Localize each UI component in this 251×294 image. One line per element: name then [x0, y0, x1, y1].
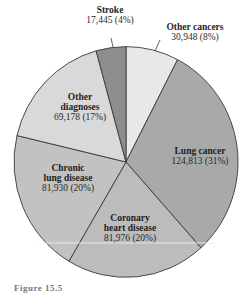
figure-caption-prefix: Figure 15.5 [14, 283, 63, 293]
label-other-cancers: Other cancers 30,948 (8%) [150, 22, 240, 42]
label-lung-cancer-name: Lung cancer [155, 146, 245, 156]
label-lung-cancer: Lung cancer 124,813 (31%) [155, 146, 245, 166]
label-coronary-value: 81,976 (20%) [90, 233, 170, 243]
label-lung-cancer-value: 124,813 (31%) [155, 156, 245, 166]
label-other-cancers-name: Other cancers [150, 22, 240, 32]
label-other-diagnoses: Other diagnoses 69,178 (17%) [40, 92, 120, 122]
label-stroke: Stroke 17,445 (4%) [70, 5, 150, 25]
label-other-diagnoses-line1: Other [40, 92, 120, 102]
figure-caption: Figure 15.5 [14, 283, 63, 293]
label-coronary-line1: Coronary [90, 213, 170, 223]
label-other-cancers-value: 30,948 (8%) [150, 32, 240, 42]
label-stroke-name: Stroke [70, 5, 150, 15]
label-other-diagnoses-line2: diagnoses [40, 102, 120, 112]
label-chronic-line1: Chronic [28, 163, 108, 173]
label-chronic-lung-disease: Chronic lung disease 81,930 (20%) [28, 163, 108, 193]
label-other-diagnoses-value: 69,178 (17%) [40, 112, 120, 122]
leader-line-stroke [111, 38, 113, 47]
label-chronic-value: 81,930 (20%) [28, 183, 108, 193]
label-chronic-line2: lung disease [28, 173, 108, 183]
label-coronary-line2: heart disease [90, 223, 170, 233]
label-stroke-value: 17,445 (4%) [70, 15, 150, 25]
label-coronary-heart-disease: Coronary heart disease 81,976 (20%) [90, 213, 170, 243]
